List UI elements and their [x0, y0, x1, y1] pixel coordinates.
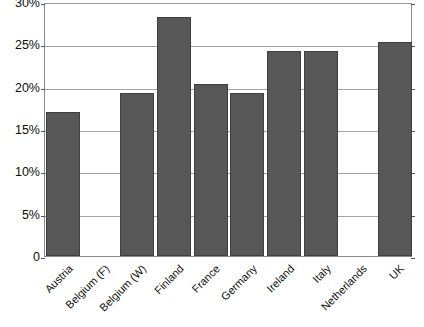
y-axis-tick-label: 0 — [4, 251, 40, 263]
bar-slot — [229, 4, 266, 256]
bar — [120, 93, 154, 256]
x-axis: AustriaBelgium (F)Belgium (W)FinlandFran… — [44, 259, 412, 327]
bar-slot — [45, 4, 82, 256]
y-axis-tick-label: 10% — [4, 166, 40, 178]
x-axis-tick-label: UK — [388, 263, 407, 282]
y-axis-tick-label: 20% — [4, 82, 40, 94]
x-axis-tick-label: France — [190, 263, 222, 295]
bar-slot — [376, 4, 413, 256]
x-axis-tick-label: Germany — [219, 263, 259, 303]
x-axis-tick-label: Ireland — [264, 263, 296, 295]
y-axis-tick-label: 15% — [4, 124, 40, 136]
bars — [45, 4, 411, 256]
bar — [230, 93, 264, 256]
bar-slot — [303, 4, 340, 256]
bar — [267, 51, 301, 256]
bar-slot — [192, 4, 229, 256]
y-axis-tick-label: 5% — [4, 209, 40, 221]
y-axis: 05%10%15%20%25%30% — [0, 0, 40, 327]
bar-slot — [82, 4, 119, 256]
bar-slot — [155, 4, 192, 256]
x-axis-tick-label: Italy — [311, 263, 333, 285]
bar-chart: 05%10%15%20%25%30% AustriaBelgium (F)Bel… — [0, 0, 424, 327]
x-axis-tick-label: Austria — [43, 263, 75, 295]
bar — [157, 17, 191, 256]
bar — [46, 112, 80, 256]
bar-slot — [119, 4, 156, 256]
bar — [194, 84, 228, 256]
bar-slot — [266, 4, 303, 256]
y-axis-tick-label: 30% — [4, 0, 40, 9]
bar-slot — [339, 4, 376, 256]
y-axis-tick-label: 25% — [4, 39, 40, 51]
bar — [304, 51, 338, 256]
bar — [378, 42, 412, 256]
plot-area — [44, 3, 412, 257]
x-axis-tick-label: Finland — [152, 263, 185, 296]
